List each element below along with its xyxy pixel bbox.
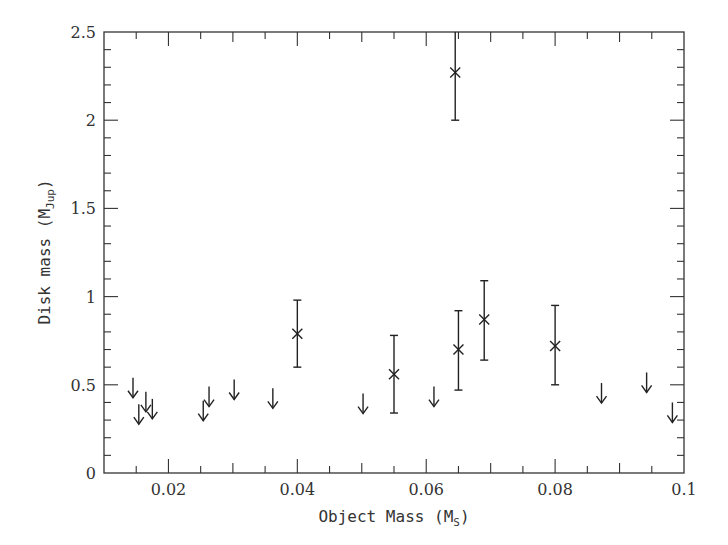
scatter-chart: 0.020.040.060.080.1 00.511.522.5 Object … bbox=[0, 0, 728, 545]
y-axis-tick-labels: 00.511.522.5 bbox=[71, 23, 96, 483]
upper-limit-series bbox=[128, 372, 677, 424]
down-arrow-icon bbox=[597, 383, 607, 403]
y-tick-label: 2 bbox=[86, 111, 96, 130]
x-tick-label: 0.02 bbox=[151, 480, 187, 499]
x-tick-label: 0.04 bbox=[280, 480, 316, 499]
down-arrow-icon bbox=[128, 378, 138, 398]
x-tick-label: 0.1 bbox=[671, 480, 696, 499]
y-axis-label: Disk mass (MJup) bbox=[35, 179, 57, 324]
x-axis-label: Object Mass (MS) bbox=[318, 507, 469, 529]
y-tick-label: 0.5 bbox=[71, 376, 96, 395]
data-point bbox=[292, 300, 302, 367]
data-point bbox=[450, 32, 460, 120]
y-tick-label: 0 bbox=[86, 464, 96, 483]
down-arrow-icon bbox=[358, 394, 368, 414]
down-arrow-icon bbox=[141, 392, 151, 412]
down-arrow-icon bbox=[229, 380, 239, 400]
down-arrow-icon bbox=[642, 372, 652, 392]
y-tick-label: 1 bbox=[86, 288, 96, 307]
x-tick-label: 0.08 bbox=[537, 480, 573, 499]
data-point bbox=[550, 305, 560, 384]
data-point bbox=[479, 281, 489, 360]
down-arrow-icon bbox=[204, 387, 214, 407]
down-arrow-icon bbox=[268, 388, 278, 408]
y-tick-label: 1.5 bbox=[71, 199, 96, 218]
down-arrow-icon bbox=[429, 387, 439, 407]
x-axis-tick-labels: 0.020.040.060.080.1 bbox=[151, 480, 697, 499]
x-tick-label: 0.06 bbox=[408, 480, 444, 499]
y-tick-label: 2.5 bbox=[71, 23, 96, 42]
data-point bbox=[453, 311, 463, 390]
data-point bbox=[389, 335, 399, 413]
down-arrow-icon bbox=[667, 402, 677, 422]
detection-series bbox=[292, 32, 560, 413]
